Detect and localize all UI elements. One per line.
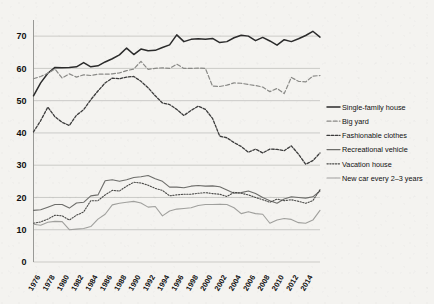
x-tick-label: 1982 bbox=[69, 274, 85, 293]
x-tick-label: 1990 bbox=[127, 274, 143, 293]
line-chart: 010203040506070 197619781980198219841986… bbox=[0, 0, 434, 304]
legend-label: Recreational vehicle bbox=[342, 145, 408, 154]
x-tick-label: 2004 bbox=[227, 273, 244, 293]
x-tick-label: 1976 bbox=[26, 274, 42, 293]
y-tick-label: 70 bbox=[16, 31, 26, 41]
legend-label: Fashionable clothes bbox=[342, 131, 407, 140]
chart-svg: 010203040506070 197619781980198219841986… bbox=[0, 0, 434, 304]
x-tick-label: 1980 bbox=[55, 274, 71, 293]
y-axis-tick-labels: 010203040506070 bbox=[16, 31, 26, 267]
x-tick-label: 1986 bbox=[98, 274, 114, 293]
x-tick-label: 1978 bbox=[41, 274, 57, 293]
x-tick-label: 2000 bbox=[198, 274, 214, 293]
y-tick-label: 20 bbox=[16, 193, 26, 203]
x-tick-label: 2006 bbox=[241, 274, 257, 293]
y-tick-label: 60 bbox=[16, 64, 26, 74]
legend-label: New car every 2–3 years bbox=[342, 174, 423, 183]
x-tick-label: 2010 bbox=[270, 274, 286, 293]
series-line bbox=[34, 31, 321, 96]
legend-label: Big yard bbox=[342, 117, 369, 126]
y-tick-label: 50 bbox=[16, 96, 26, 106]
series-lines bbox=[34, 31, 321, 229]
legend-label: Vacation house bbox=[342, 160, 392, 169]
x-tick-label: 2002 bbox=[212, 274, 228, 293]
x-tick-label: 1988 bbox=[112, 274, 128, 293]
y-tick-label: 30 bbox=[16, 160, 26, 170]
legend-label: Single-family house bbox=[342, 103, 406, 112]
x-tick-label: 2012 bbox=[284, 274, 300, 293]
x-tick-label: 1998 bbox=[184, 274, 200, 293]
x-tick-label: 1992 bbox=[141, 274, 157, 293]
y-tick-label: 40 bbox=[16, 128, 26, 138]
y-tick-label: 0 bbox=[21, 257, 26, 267]
x-tick-label: 2008 bbox=[255, 274, 271, 293]
x-axis-tick-labels: 1976197819801982198419861988199019921994… bbox=[26, 273, 315, 293]
series-line bbox=[34, 76, 321, 164]
x-tick-label: 1994 bbox=[155, 273, 172, 293]
series-line bbox=[34, 176, 321, 211]
x-tick-label: 1984 bbox=[84, 273, 101, 293]
chart-legend: Single-family houseBig yardFashionable c… bbox=[327, 103, 423, 183]
x-tick-label: 1996 bbox=[170, 274, 186, 293]
y-tick-label: 10 bbox=[16, 225, 26, 235]
x-tick-label: 2014 bbox=[298, 273, 315, 293]
